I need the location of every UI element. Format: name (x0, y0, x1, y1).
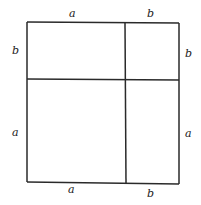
label-bottom-a: a (68, 184, 75, 195)
diagram-canvas: a b b a b a a b (0, 0, 201, 205)
label-top-b: b (147, 8, 154, 19)
square-partition-figure (0, 0, 201, 205)
label-left-a: a (12, 127, 19, 138)
label-bottom-b: b (147, 188, 154, 199)
label-right-a: a (185, 128, 192, 139)
label-right-b: b (185, 48, 192, 59)
label-top-a: a (69, 8, 76, 19)
outer-top-edge (27, 22, 179, 23)
horizontal-divider (27, 79, 179, 80)
label-left-b: b (12, 45, 19, 56)
vertical-divider (125, 23, 126, 183)
outer-bottom-edge (27, 182, 179, 184)
